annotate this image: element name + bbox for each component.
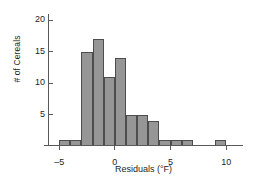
histogram-bar bbox=[126, 115, 137, 146]
x-axis-title: Residuals (°F) bbox=[44, 164, 243, 175]
y-axis-tick-label: 5 bbox=[5, 110, 45, 119]
x-axis-tick-label-wrap: –5 bbox=[44, 151, 74, 162]
y-axis-tick-label-wrap: 5 bbox=[0, 110, 45, 119]
y-axis-tick-label: 15 bbox=[5, 47, 45, 56]
y-axis-tick-label-wrap: 20 bbox=[0, 15, 45, 24]
x-axis-tick-label-wrap: 0 bbox=[100, 151, 130, 162]
histogram-bar bbox=[93, 39, 104, 146]
x-axis-tick bbox=[170, 146, 171, 150]
histogram-bar bbox=[137, 115, 148, 146]
histogram-bar bbox=[115, 58, 126, 146]
x-axis-tick bbox=[59, 146, 60, 150]
x-axis-tick-label-wrap: 10 bbox=[211, 151, 241, 162]
plot-area bbox=[48, 14, 243, 146]
y-axis-tick-label-wrap: 10 bbox=[0, 78, 45, 87]
y-axis-tick-label-wrap: 15 bbox=[0, 47, 45, 56]
histogram-bar bbox=[104, 77, 115, 146]
x-axis-line bbox=[44, 145, 243, 146]
y-axis-tick-label: 20 bbox=[5, 15, 45, 24]
y-axis-title: # of Cereals bbox=[10, 14, 24, 104]
x-axis-tick bbox=[114, 146, 115, 150]
histogram-bar bbox=[148, 121, 159, 146]
x-axis-tick-label-wrap: 5 bbox=[156, 151, 186, 162]
y-axis-tick-label: 10 bbox=[5, 78, 45, 87]
histogram-bar bbox=[81, 52, 92, 146]
x-axis-tick bbox=[226, 146, 227, 150]
histogram-chart: # of Cereals 5101520 –50510 Residuals (°… bbox=[0, 0, 261, 184]
